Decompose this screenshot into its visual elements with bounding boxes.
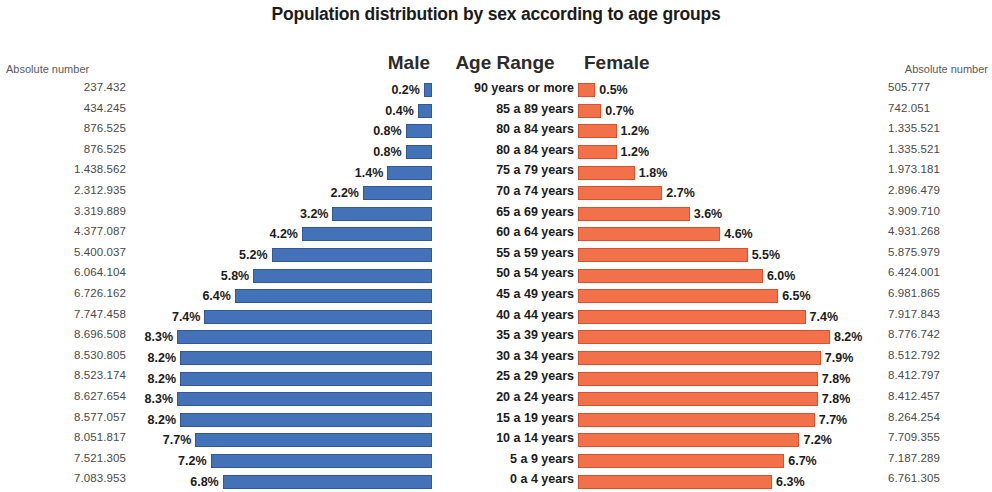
male-bar[interactable]	[180, 372, 432, 386]
absolute-number-female: 4.931.268	[880, 225, 988, 237]
female-bar-group: 3.6%	[578, 204, 878, 225]
male-bar[interactable]	[406, 124, 432, 138]
male-bar[interactable]	[253, 269, 432, 283]
female-bar[interactable]	[578, 104, 601, 118]
male-percent-label: 4.2%	[269, 227, 298, 241]
female-bar-group: 6.7%	[578, 451, 878, 472]
absolute-number-female: 1.973.181	[880, 163, 988, 175]
male-percent-label: 0.4%	[385, 104, 414, 118]
pyramid-row: 2.312.9352.2%70 a 74 years2.7%2.896.479	[0, 183, 992, 204]
pyramid-row: 6.064.1045.8%50 a 54 years6.0%6.424.001	[0, 265, 992, 286]
age-range-label: 5 a 9 years	[436, 452, 574, 466]
male-bar[interactable]	[332, 207, 432, 221]
male-bar[interactable]	[363, 186, 432, 200]
age-range-label: 35 a 39 years	[436, 328, 574, 342]
female-percent-label: 3.6%	[694, 207, 723, 221]
absolute-number-female: 6.424.001	[880, 266, 988, 278]
female-bar[interactable]	[578, 145, 617, 159]
page-title: Population distribution by sex according…	[0, 4, 992, 25]
male-bar[interactable]	[272, 248, 433, 262]
male-percent-label: 7.4%	[172, 310, 201, 324]
male-bar-group: 6.4%	[132, 286, 432, 307]
female-bar[interactable]	[578, 475, 772, 489]
absolute-number-female: 1.335.521	[880, 122, 988, 134]
female-bar-group: 6.0%	[578, 265, 878, 286]
absolute-number-male: 876.525	[6, 122, 126, 134]
age-range-label: 60 a 64 years	[436, 225, 574, 239]
female-bar[interactable]	[578, 372, 818, 386]
female-bar[interactable]	[578, 330, 830, 344]
column-header-age-range: Age Range	[440, 52, 570, 74]
female-bar[interactable]	[578, 310, 806, 324]
male-bar[interactable]	[204, 310, 432, 324]
male-bar[interactable]	[387, 166, 432, 180]
male-bar[interactable]	[418, 104, 432, 118]
female-bar[interactable]	[578, 227, 720, 241]
female-bar[interactable]	[578, 289, 778, 303]
female-bar-group: 7.2%	[578, 430, 878, 451]
pyramid-row: 8.627.6548.3%20 a 24 years7.8%8.412.457	[0, 389, 992, 410]
female-percent-label: 6.3%	[776, 475, 805, 489]
female-bar[interactable]	[578, 351, 821, 365]
pyramid-row: 8.051.8177.7%10 a 14 years7.2%7.709.355	[0, 430, 992, 451]
female-percent-label: 0.5%	[599, 83, 628, 97]
female-percent-label: 7.8%	[822, 392, 851, 406]
female-percent-label: 5.5%	[752, 248, 781, 262]
female-percent-label: 4.6%	[724, 227, 753, 241]
female-bar-group: 4.6%	[578, 224, 878, 245]
female-percent-label: 7.7%	[819, 413, 848, 427]
absolute-number-female: 8.412.797	[880, 369, 988, 381]
female-bar[interactable]	[578, 269, 763, 283]
absolute-number-male: 8.627.654	[6, 390, 126, 402]
absolute-number-male: 7.521.305	[6, 452, 126, 464]
male-percent-label: 7.2%	[178, 454, 207, 468]
female-bar-group: 6.3%	[578, 471, 878, 492]
male-bar[interactable]	[211, 454, 432, 468]
absolute-number-male: 7.747.458	[6, 308, 126, 320]
male-bar-group: 0.2%	[132, 80, 432, 101]
male-bar[interactable]	[180, 413, 432, 427]
male-bar[interactable]	[302, 227, 432, 241]
male-bar-group: 6.8%	[132, 471, 432, 492]
male-bar[interactable]	[177, 330, 432, 344]
pyramid-row: 1.438.5621.4%75 a 79 years1.8%1.973.181	[0, 162, 992, 183]
age-range-label: 25 a 29 years	[436, 369, 574, 383]
female-bar-group: 6.5%	[578, 286, 878, 307]
male-bar-group: 4.2%	[132, 224, 432, 245]
female-bar[interactable]	[578, 454, 784, 468]
male-percent-label: 1.4%	[355, 166, 384, 180]
female-bar[interactable]	[578, 248, 748, 262]
absolute-number-female: 7.187.289	[880, 452, 988, 464]
female-bar[interactable]	[578, 392, 818, 406]
absolute-number-female: 8.264.254	[880, 411, 988, 423]
absolute-number-female: 2.896.479	[880, 184, 988, 196]
female-bar[interactable]	[578, 433, 799, 447]
female-bar[interactable]	[578, 83, 595, 97]
male-bar-group: 0.4%	[132, 101, 432, 122]
male-bar[interactable]	[177, 392, 432, 406]
male-bar[interactable]	[223, 475, 432, 489]
female-percent-label: 0.7%	[605, 104, 634, 118]
male-bar[interactable]	[406, 145, 432, 159]
male-bar[interactable]	[424, 83, 432, 97]
pyramid-row: 4.377.0874.2%60 a 64 years4.6%4.931.268	[0, 224, 992, 245]
female-percent-label: 6.5%	[782, 289, 811, 303]
female-bar[interactable]	[578, 124, 617, 138]
female-bar[interactable]	[578, 413, 815, 427]
female-bar[interactable]	[578, 207, 690, 221]
female-percent-label: 2.7%	[666, 186, 695, 200]
male-bar[interactable]	[180, 351, 432, 365]
female-bar[interactable]	[578, 166, 635, 180]
female-percent-label: 7.8%	[822, 372, 851, 386]
male-percent-label: 0.2%	[391, 83, 420, 97]
male-bar[interactable]	[235, 289, 432, 303]
age-range-label: 0 a 4 years	[436, 472, 574, 486]
male-bar-group: 8.2%	[132, 368, 432, 389]
column-header-absolute-left: Absolute number	[6, 63, 126, 75]
absolute-number-male: 237.432	[6, 81, 126, 93]
female-bar[interactable]	[578, 186, 662, 200]
male-percent-label: 3.2%	[300, 207, 329, 221]
male-bar[interactable]	[195, 433, 432, 447]
pyramid-row: 3.319.8893.2%65 a 69 years3.6%3.909.710	[0, 204, 992, 225]
age-range-label: 85 a 89 years	[436, 102, 574, 116]
